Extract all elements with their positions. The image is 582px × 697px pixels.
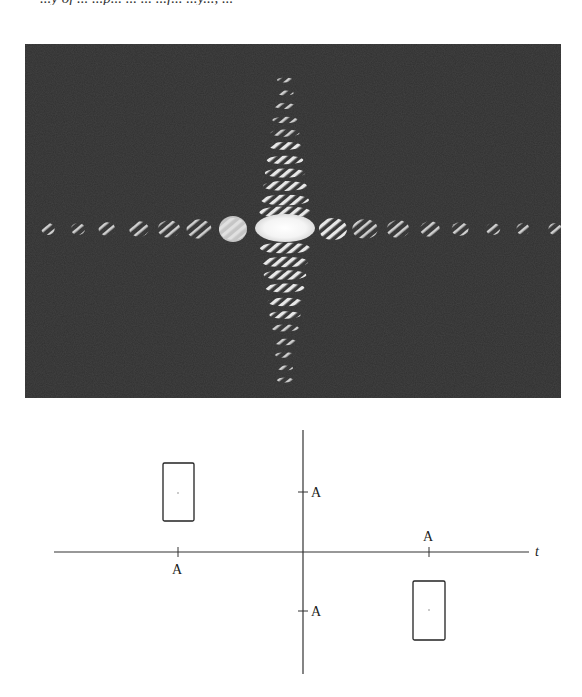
vertical-fringe-row xyxy=(271,325,298,332)
vertical-fringe-row xyxy=(267,156,304,165)
horizontal-fringe-spot xyxy=(158,220,180,238)
horizontal-fringe-spot xyxy=(352,219,377,239)
horizontal-fringe-spot xyxy=(99,222,116,235)
right-x-tick-label: A xyxy=(423,529,434,544)
axes-diagram-svg: A A A A t xyxy=(0,420,582,697)
horizontal-fringe-spot xyxy=(319,218,347,240)
horizontal-fringe-spot xyxy=(451,222,468,236)
vertical-fringe-row xyxy=(268,298,303,306)
vertical-fringe-row xyxy=(265,168,305,177)
clipped-header-text: ...y of ... ...p... ... ... ...f... ...y… xyxy=(0,0,582,5)
diffraction-photo xyxy=(25,44,561,398)
left-x-tick-label: A xyxy=(172,562,183,577)
vertical-fringe-row xyxy=(277,378,293,383)
horizontal-fringe-spot xyxy=(516,223,529,235)
vertical-fringe-row xyxy=(260,243,310,254)
t-axis-label: t xyxy=(535,544,540,559)
diffraction-pattern-svg xyxy=(25,44,561,398)
vertical-fringe-row xyxy=(261,195,309,206)
vertical-fringe-row xyxy=(272,117,297,124)
vertical-fringe-row xyxy=(271,129,300,136)
time-domain-diagram: A A A A t xyxy=(0,420,582,697)
vertical-fringe-row xyxy=(277,78,293,83)
lower-right-rect-center-dot xyxy=(428,609,430,611)
horizontal-fringe-spot xyxy=(187,219,212,239)
upper-left-rect-center-dot xyxy=(177,492,179,494)
upper-left-rect xyxy=(163,463,194,521)
vertical-fringe-row xyxy=(277,366,293,371)
horizontal-fringe-spot xyxy=(129,221,149,237)
vertical-fringe-row xyxy=(266,284,305,293)
horizontal-fringe-spot xyxy=(41,223,54,235)
horizontal-fringe-spot xyxy=(420,221,440,237)
central-lobe xyxy=(255,214,315,242)
vertical-fringe-row xyxy=(264,270,307,280)
side-lobe xyxy=(219,216,247,242)
vertical-fringe-row xyxy=(262,257,308,267)
horizontal-fringe-spot xyxy=(387,220,410,238)
vertical-fringe-row xyxy=(276,90,293,95)
vertical-fringe-row xyxy=(273,339,296,345)
vertical-fringe-row xyxy=(263,181,307,191)
vertical-fringe-row xyxy=(269,311,300,319)
lower-y-tick-label: A xyxy=(311,604,322,619)
vertical-fringe-row xyxy=(269,142,302,150)
upper-y-tick-label: A xyxy=(311,485,322,500)
horizontal-fringe-spot xyxy=(71,223,85,235)
horizontal-fringe-spot xyxy=(486,223,500,235)
vertical-fringe-row xyxy=(275,352,295,358)
vertical-fringe-row xyxy=(274,103,295,109)
